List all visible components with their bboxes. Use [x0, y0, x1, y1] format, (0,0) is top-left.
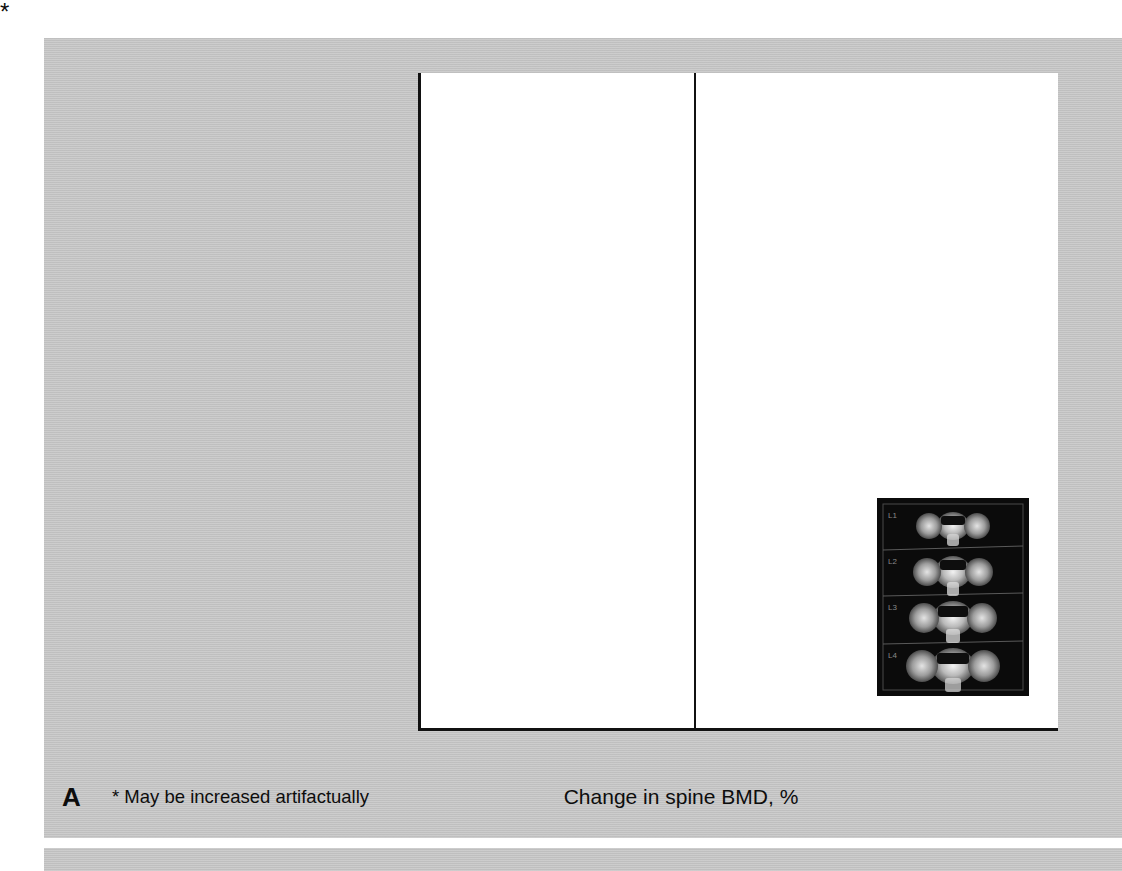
asterisk-annotation: *: [0, 0, 9, 24]
x-axis-title-text: Change in spine BMD, %: [564, 785, 799, 808]
svg-text:L3: L3: [888, 603, 897, 612]
dxa-spine-scan-image: L1 L2 L3 L4: [873, 494, 1033, 700]
figure-footnote: * May be increased artifactually: [112, 786, 369, 808]
panel-letter: A: [62, 782, 81, 813]
svg-text:L2: L2: [888, 557, 897, 566]
zero-axis-line: [694, 73, 696, 728]
svg-text:L1: L1: [888, 511, 897, 520]
category-axis: [0, 73, 406, 731]
svg-text:L4: L4: [888, 651, 897, 660]
figure-panel-b: [44, 848, 1122, 871]
figure-root: *: [0, 0, 1122, 871]
